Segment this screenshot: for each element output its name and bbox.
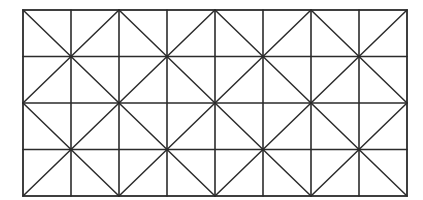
grid-diagram — [0, 0, 423, 200]
